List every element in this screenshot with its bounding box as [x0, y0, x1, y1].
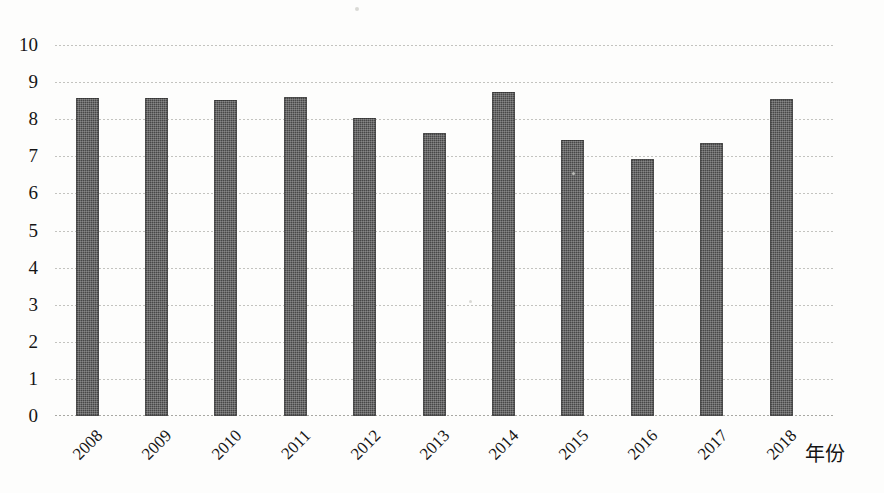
x-axis-title: 年份 [805, 438, 845, 467]
bar-2008 [76, 98, 99, 416]
x-axis-tick-label-2008: 2008 [58, 426, 107, 475]
bar-2012 [353, 118, 376, 416]
x-axis-tick-label-2013: 2013 [405, 426, 454, 475]
y-axis-tick-label: 6 [29, 182, 39, 204]
y-axis-tick-label: 8 [29, 108, 39, 130]
x-axis-tick-label-2015: 2015 [543, 426, 592, 475]
x-axis-tick-label-2016: 2016 [613, 426, 662, 475]
bar-2016 [631, 159, 654, 416]
y-axis-tick-label: 4 [29, 257, 39, 279]
scan-speck [469, 300, 472, 303]
y-axis-tick-labels: 10 9 8 7 6 5 4 3 2 1 0 [0, 45, 46, 416]
bar-2011 [284, 97, 307, 416]
y-axis-tick-label: 9 [29, 71, 39, 93]
bar-2009 [145, 98, 168, 416]
x-axis-tick-label-2012: 2012 [335, 426, 384, 475]
x-axis-tick-label-2018: 2018 [752, 426, 801, 475]
y-axis-tick-label: 5 [29, 220, 39, 242]
y-axis-tick-label: 1 [29, 368, 39, 390]
scan-speck [572, 172, 575, 175]
x-axis-tick-label-2010: 2010 [196, 426, 245, 475]
x-axis-tick-label-2011: 2011 [266, 426, 315, 475]
y-axis-tick-label: 0 [29, 405, 39, 427]
x-axis-tick-label-2009: 2009 [127, 426, 176, 475]
bar-2015 [561, 140, 584, 416]
x-axis-tick-label-2014: 2014 [474, 426, 523, 475]
y-axis-tick-label: 7 [29, 145, 39, 167]
gridline-9 [55, 82, 835, 83]
y-axis-tick-label: 3 [29, 294, 39, 316]
scan-speck [355, 7, 359, 11]
bar-2013 [423, 133, 446, 416]
bar-2014 [492, 92, 515, 416]
gridline-8 [55, 119, 835, 120]
x-axis-tick-label-2017: 2017 [682, 426, 731, 475]
bar-2017 [700, 143, 723, 416]
bar-2018 [770, 99, 793, 416]
gridline-10 [55, 45, 835, 46]
bar-2010 [214, 100, 237, 416]
x-axis-tick-labels: 2008200920102011201220132014201520162017… [55, 418, 835, 478]
y-axis-tick-label: 10 [19, 34, 38, 56]
bar-chart-figure: 10 9 8 7 6 5 4 3 2 1 0 20082009201020112… [0, 0, 884, 493]
y-axis-tick-label: 2 [29, 331, 39, 353]
plot-area [55, 45, 835, 416]
